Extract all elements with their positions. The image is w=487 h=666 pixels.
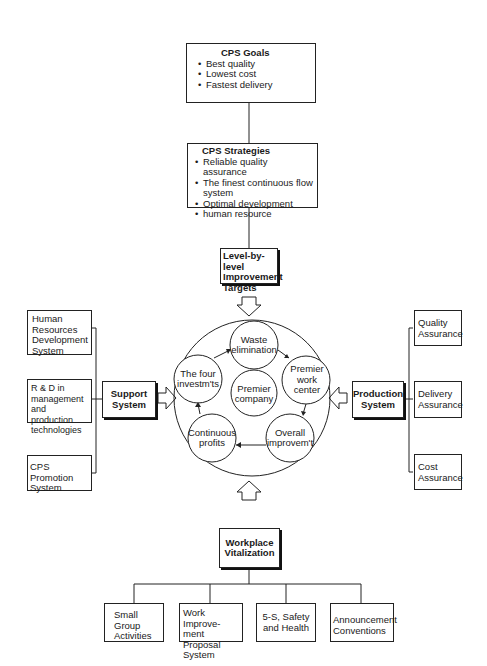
cycle-center-company: Premier company xyxy=(234,380,274,408)
strategies-title: CPS Strategies xyxy=(194,146,313,157)
cycle-node-waste: Waste elimination xyxy=(230,331,278,359)
strategy-item: The finest continuous flow system xyxy=(194,178,313,199)
cps-goals-box: CPS Goals Best quality Lowest cost Faste… xyxy=(186,43,316,103)
production-system-box: Production System xyxy=(352,381,404,418)
improvement-targets-box: Level-by-level Improvement Targets xyxy=(220,248,278,284)
production-item-cost: Cost Assurance xyxy=(414,454,462,490)
workplace-item-small-group: Small Group Activities xyxy=(104,603,164,642)
support-system-box: Support System xyxy=(102,381,156,418)
cycle-node-work-center: Premier work center xyxy=(286,362,328,398)
goals-title: CPS Goals xyxy=(197,48,311,59)
cycle-node-improvement: Overall improvem't xyxy=(266,424,314,452)
support-item-hr: Human Resources Development System xyxy=(27,310,92,355)
workplace-vitalization-box: Workplace Vitalization xyxy=(219,528,280,568)
workplace-item-safety: 5-S, Safety and Health xyxy=(256,603,316,642)
goal-item: Lowest cost xyxy=(197,69,311,80)
support-item-promotion: CPS Promotion System xyxy=(27,455,92,491)
workplace-item-announcement: Announcement Conventions xyxy=(330,603,394,642)
workplace-item-proposal: Work Improve-ment Proposal System xyxy=(179,603,243,642)
strategy-item: human resource xyxy=(194,209,313,220)
strategy-item: Reliable quality assurance xyxy=(194,157,313,178)
cps-strategies-box: CPS Strategies Reliable quality assuranc… xyxy=(187,143,318,208)
cycle-node-profits: Continuous profits xyxy=(188,424,236,452)
cycle-node-investments: The four investm'ts xyxy=(176,361,220,397)
support-item-rnd: R & D in management and production techn… xyxy=(27,379,92,423)
production-item-delivery: Delivery Assurance xyxy=(414,381,462,418)
goal-item: Fastest delivery xyxy=(197,80,311,91)
production-item-quality: Quality Assurance xyxy=(414,310,462,346)
